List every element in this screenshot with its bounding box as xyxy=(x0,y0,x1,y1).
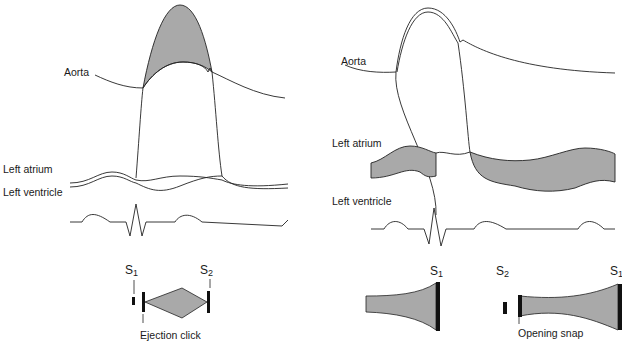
murmur-diamond-left xyxy=(145,288,207,318)
label-left-atrium-left: Left atrium xyxy=(3,163,53,175)
s2-bar-left xyxy=(207,291,210,313)
label-left-ventricle-left: Left ventricle xyxy=(3,186,63,198)
ventricle-curve-left xyxy=(70,176,288,190)
label-left-ventricle-right: Left ventricle xyxy=(332,195,392,207)
label-s2-left: S2 xyxy=(200,263,213,278)
pressure-curves xyxy=(0,0,622,352)
s1-bar-right-1 xyxy=(436,282,440,331)
s2-bar-right xyxy=(503,302,507,314)
s1-bar-right-2 xyxy=(618,284,622,330)
label-s1-left: S1 xyxy=(125,263,138,278)
label-aorta-right: Aorta xyxy=(341,55,366,67)
ventricle-pressure-right xyxy=(396,43,470,215)
ecg-right xyxy=(371,208,615,246)
atrium-curve-left xyxy=(70,172,288,186)
murmur-presystolic-1 xyxy=(366,283,436,330)
aorta-curve-left xyxy=(95,62,285,98)
atrium-gradient-fill-1 xyxy=(371,146,436,178)
label-opening-snap: Opening snap xyxy=(518,327,583,339)
aorta-curve-right xyxy=(345,8,615,73)
label-ejection-click: Ejection click xyxy=(140,329,201,341)
s1-bar-left xyxy=(132,297,135,305)
label-s2-right: S2 xyxy=(496,264,509,279)
label-aorta-left: Aorta xyxy=(64,66,89,78)
diagram: Aorta Left atrium Left ventricle S1 S2 E… xyxy=(0,0,622,352)
atrium-curve-right xyxy=(436,152,470,154)
murmur-diastolic xyxy=(520,284,618,330)
opening-snap-bar xyxy=(518,295,522,317)
atrium-gradient-fill-2 xyxy=(470,148,615,191)
ventricle-pressure-left xyxy=(136,72,222,178)
label-s1-right-b: S1 xyxy=(610,264,622,279)
label-left-atrium-right: Left atrium xyxy=(332,137,382,149)
ecg-left xyxy=(70,204,288,236)
label-s1-right-a: S1 xyxy=(430,264,443,279)
